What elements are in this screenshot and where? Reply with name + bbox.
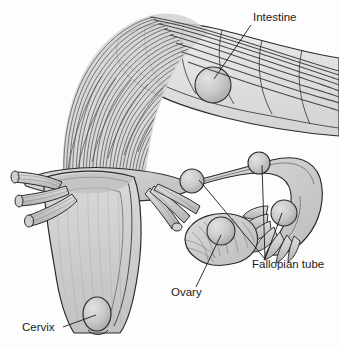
left-vessel-2-cut-end [15,195,23,207]
illustration-canvas: Intestine Fallopian tube Ovary Cervix [0,0,339,347]
tube-implant-nodule-3 [271,200,297,226]
label-intestine: Intestine [253,11,296,23]
left-vessel-1-cut-end [11,171,19,183]
tube-implant-nodule-2 [248,152,270,174]
cervix-nodule [83,297,111,331]
right-vessel-1-cut-end [172,223,182,231]
ovary-endometrioma [207,217,235,245]
label-cervix: Cervix [22,321,55,333]
label-ovary: Ovary [171,286,202,298]
label-fallopian-tube: Fallopian tube [252,258,324,270]
left-vessel-3-cut-end [25,215,34,227]
intestine-implant-nodule [195,67,231,103]
ovary-group [185,214,258,266]
anatomical-illustration: Intestine Fallopian tube Ovary Cervix [0,0,339,347]
